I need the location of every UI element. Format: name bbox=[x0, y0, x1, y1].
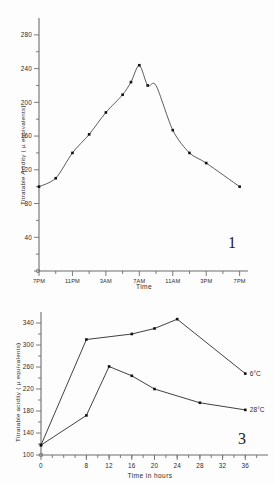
figure-3-data-point bbox=[131, 375, 134, 378]
figure-3-y-axis-title: Titratable acidity ( µ equivalents) bbox=[14, 343, 21, 442]
figure-3-x-ticks: 0812162024283236 bbox=[39, 455, 257, 469]
figure-1-x-tick-label: 3PM bbox=[200, 278, 212, 284]
figure-1-y-axis-title: Titratable Acidity ( µ equivalents) bbox=[19, 105, 26, 205]
figure-3-data-point bbox=[40, 444, 43, 447]
figure-page: 4080120160200240280 7PM11PM3AM7AM11AM3PM… bbox=[0, 0, 275, 484]
figure-3-y-ticks: 100140180220260300340 bbox=[23, 319, 41, 458]
figure-3-x-tick-label: 8 bbox=[85, 462, 89, 469]
figure-3-data-point bbox=[85, 414, 88, 417]
figure-3-x-tick-label: 0 bbox=[39, 462, 43, 469]
figure-3-series-group bbox=[40, 318, 247, 447]
figure-3-series-label-6c: 6°C bbox=[250, 370, 261, 377]
figure-1-data-point bbox=[146, 84, 149, 87]
figure-3-x-axis-title: Time in hours bbox=[128, 472, 173, 479]
figure-3-svg: 100140180220260300340 0812162024283236 6… bbox=[0, 292, 275, 484]
figure-1-data-point bbox=[54, 177, 57, 180]
figure-1-fitted-curve bbox=[39, 65, 240, 187]
figure-3-data-point bbox=[85, 338, 88, 341]
figure-1-x-tick-label: 11PM bbox=[65, 278, 80, 284]
figure-3-data-point bbox=[244, 372, 247, 375]
figure-1-data-point bbox=[88, 133, 91, 136]
figure-3-y-tick-label: 260 bbox=[23, 363, 35, 370]
figure-1-svg: 4080120160200240280 7PM11PM3AM7AM11AM3PM… bbox=[0, 0, 275, 292]
figure-3-number: 3 bbox=[238, 430, 246, 447]
figure-3: 100140180220260300340 0812162024283236 6… bbox=[0, 292, 275, 484]
figure-1-y-tick-label: 40 bbox=[24, 234, 32, 241]
figure-3-y-tick-label: 100 bbox=[23, 451, 35, 458]
figure-1-data-point bbox=[121, 93, 124, 96]
figure-1-data-point bbox=[38, 185, 41, 188]
figure-1-data-point bbox=[71, 152, 74, 155]
figure-3-y-tick-label: 140 bbox=[23, 429, 35, 436]
figure-3-data-point bbox=[131, 333, 134, 336]
figure-3-data-point bbox=[153, 388, 156, 391]
figure-3-data-point bbox=[108, 365, 111, 368]
figure-1-data-point bbox=[238, 185, 241, 188]
figure-1-y-tick-label: 280 bbox=[21, 31, 33, 38]
figure-1-data-point bbox=[171, 129, 174, 132]
figure-1-data-point bbox=[205, 162, 208, 165]
figure-1-data-point bbox=[188, 152, 191, 155]
figure-3-x-tick-label: 36 bbox=[242, 462, 250, 469]
figure-1-data-point bbox=[138, 64, 141, 67]
figure-3-series-label-28c: 28°C bbox=[250, 406, 265, 413]
figure-1-y-tick-label: 200 bbox=[21, 99, 33, 106]
figure-3-x-tick-label: 24 bbox=[173, 462, 181, 469]
figure-3-x-tick-label: 28 bbox=[196, 462, 204, 469]
figure-1-number: 1 bbox=[228, 234, 236, 251]
figure-3-x-tick-label: 16 bbox=[128, 462, 136, 469]
figure-3-x-tick-label: 20 bbox=[151, 462, 159, 469]
figure-3-y-tick-label: 340 bbox=[23, 319, 35, 326]
figure-1: 4080120160200240280 7PM11PM3AM7AM11AM3PM… bbox=[0, 0, 275, 292]
figure-3-y-tick-label: 220 bbox=[23, 385, 35, 392]
figure-1-data-point bbox=[105, 111, 108, 114]
figure-3-x-tick-label: 12 bbox=[105, 462, 113, 469]
figure-3-data-point bbox=[199, 401, 202, 404]
figure-3-y-tick-label: 180 bbox=[23, 407, 35, 414]
figure-1-data-points bbox=[38, 64, 241, 188]
figure-1-x-axis-title: Time bbox=[136, 283, 152, 290]
figure-1-x-tick-label: 3AM bbox=[100, 278, 112, 284]
figure-3-series-line-28c bbox=[41, 367, 245, 446]
figure-3-data-point bbox=[153, 327, 156, 330]
figure-1-data-point bbox=[130, 81, 133, 84]
figure-3-y-tick-label: 300 bbox=[23, 341, 35, 348]
figure-1-x-tick-label: 7PM bbox=[33, 278, 45, 284]
figure-1-x-tick-label: 11AM bbox=[165, 278, 180, 284]
figure-1-y-tick-label: 240 bbox=[21, 65, 33, 72]
figure-3-data-point bbox=[176, 318, 179, 321]
figure-3-x-tick-label: 32 bbox=[219, 462, 227, 469]
figure-3-data-point bbox=[244, 409, 247, 412]
figure-1-x-tick-label: 7PM bbox=[234, 278, 246, 284]
